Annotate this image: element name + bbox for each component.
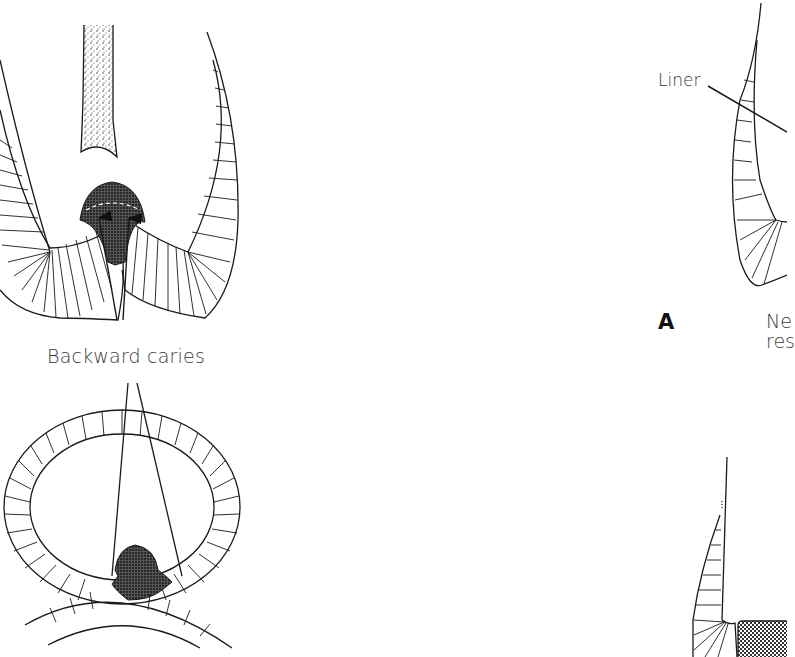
panel-letter-a: A [658, 312, 674, 333]
label-liner: Liner [658, 72, 700, 89]
caption-fragment-line2: res [766, 332, 795, 351]
liner-pointer-line [708, 86, 787, 132]
pulp-canal [81, 25, 117, 157]
restoration-material [738, 621, 787, 657]
small-vertical-mark: ••• [719, 500, 725, 509]
label-backward-caries: Backward caries [47, 347, 205, 366]
tooth-section-restoration: ••• [693, 457, 787, 657]
tooth-section-bottom-left [4, 383, 240, 648]
tooth-section-liner [708, 3, 787, 286]
caries-lesion [80, 182, 145, 265]
caption-fragment-line1: Ne [766, 312, 792, 331]
tooth-section-top-left [0, 25, 238, 320]
